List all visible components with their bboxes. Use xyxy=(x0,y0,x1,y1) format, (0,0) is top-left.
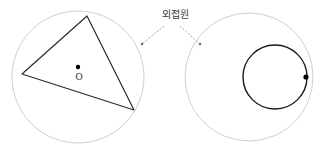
leader-endpoint-dot-left xyxy=(141,43,144,46)
leader-line-right xyxy=(180,26,200,44)
callout-leaders-group xyxy=(141,26,202,45)
circumcenter-label: O xyxy=(72,71,86,82)
right-inner-circle xyxy=(243,45,307,109)
figure-canvas xyxy=(0,0,325,158)
inscribed-triangle xyxy=(22,16,134,110)
leader-line-left xyxy=(142,26,164,44)
geometry-figure: 외접원 O xyxy=(0,0,325,158)
tangent-point-dot xyxy=(303,74,308,79)
right-outer-circle xyxy=(185,13,313,141)
leader-endpoint-dot-right xyxy=(199,43,202,46)
circumcenter-dot xyxy=(76,65,80,69)
right-diagram-group xyxy=(185,13,313,141)
